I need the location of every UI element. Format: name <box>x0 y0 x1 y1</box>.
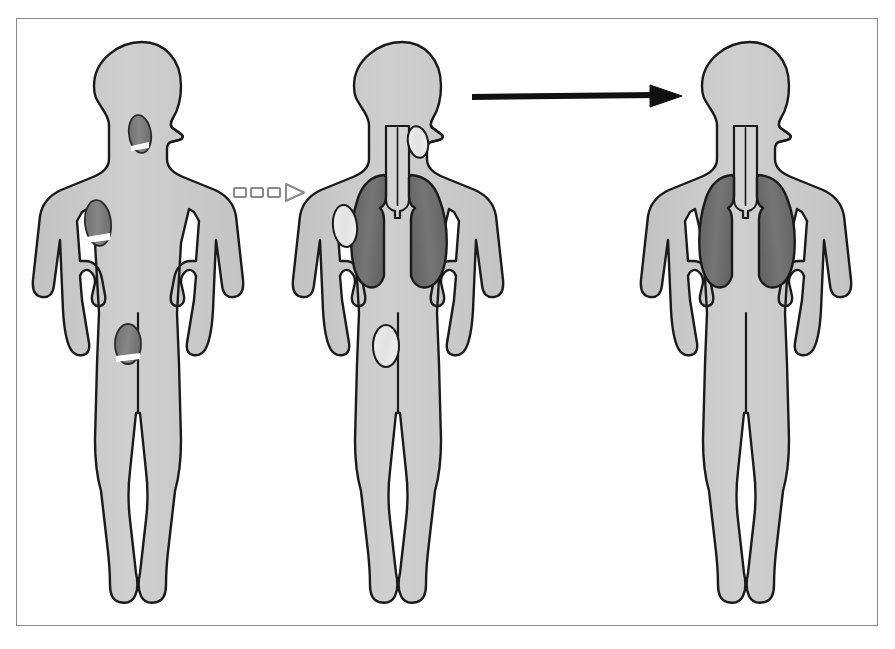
figure-2-trachea[interactable] <box>386 126 409 218</box>
figure-2-lesion-groin[interactable] <box>373 325 399 367</box>
diagram-canvas: Baseline figure with active lesions <box>0 0 895 649</box>
dash-segment-3 <box>268 188 280 197</box>
figure-3-trachea[interactable] <box>734 126 757 218</box>
figure-1-lesion-groin[interactable] <box>115 324 141 364</box>
dash-segment-1 <box>234 188 246 197</box>
solid-arrow-shaft <box>472 95 655 97</box>
dash-segment-2 <box>251 188 263 197</box>
